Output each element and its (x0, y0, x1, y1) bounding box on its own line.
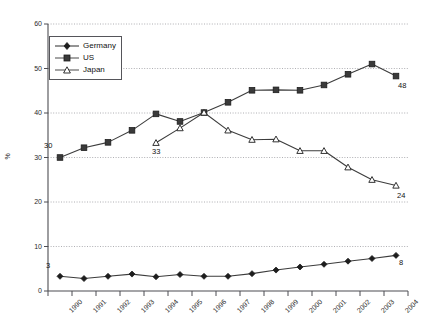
annotation-japan-1994: 33 (152, 148, 160, 156)
data-point-us (321, 82, 327, 88)
data-point-germany (153, 274, 159, 280)
japan-marker-icon (54, 65, 80, 75)
y-axis-tick-label: 50 (20, 65, 42, 73)
legend-label-germany: Germany (80, 41, 116, 51)
data-point-germany (273, 267, 279, 273)
data-point-us (153, 111, 159, 117)
data-point-germany (321, 261, 327, 267)
y-axis-tick-label: 60 (20, 20, 42, 28)
series-line-japan (156, 113, 396, 186)
data-point-us (177, 119, 183, 125)
data-point-us (105, 140, 111, 146)
data-point-us (345, 71, 351, 77)
legend-item-germany: Germany (54, 40, 116, 52)
data-point-germany (177, 272, 183, 278)
y-axis-tick-label: 0 (20, 287, 42, 295)
data-point-us (129, 128, 135, 134)
data-point-germany (105, 273, 111, 279)
legend-item-japan: Japan (54, 64, 116, 76)
data-point-germany (369, 256, 375, 262)
data-point-germany (201, 273, 207, 279)
annotation-us-2004: 48 (398, 82, 406, 90)
annotation-germany-1990: 3 (46, 262, 50, 270)
data-point-us (249, 88, 255, 94)
annotation-germany-2004: 8 (399, 259, 403, 267)
data-point-us (297, 88, 303, 94)
annotation-us-1990: 30 (44, 142, 52, 150)
legend-label-japan: Japan (80, 65, 105, 75)
data-point-germany (249, 271, 255, 277)
y-axis-tick-label: 30 (20, 154, 42, 162)
data-point-germany (129, 271, 135, 277)
y-axis-title: % (4, 153, 11, 159)
data-point-germany (57, 273, 63, 279)
annotation-japan-2004: 24 (397, 192, 405, 200)
data-point-germany (81, 276, 87, 282)
y-axis-tick-label: 20 (20, 198, 42, 206)
data-point-germany (297, 264, 303, 270)
y-axis-tick-label: 10 (20, 243, 42, 251)
legend-label-us: US (80, 53, 94, 63)
data-point-us (225, 100, 231, 106)
data-point-us (393, 73, 399, 79)
data-point-japan (369, 177, 375, 183)
legend-item-us: US (54, 52, 116, 64)
y-axis-tick-label: 40 (20, 109, 42, 117)
data-point-germany (225, 273, 231, 279)
data-point-us (273, 87, 279, 93)
data-point-japan (177, 125, 183, 131)
data-point-us (57, 155, 63, 161)
data-point-japan (153, 140, 159, 146)
germany-marker-icon (54, 41, 80, 51)
line-chart: 0102030405060 19901991199219931994199519… (0, 0, 430, 331)
us-marker-icon (54, 53, 80, 63)
data-point-japan (345, 164, 351, 170)
data-point-us (369, 61, 375, 67)
data-point-us (81, 145, 87, 151)
legend: Germany US Japan (49, 36, 122, 80)
data-point-germany (345, 258, 351, 264)
